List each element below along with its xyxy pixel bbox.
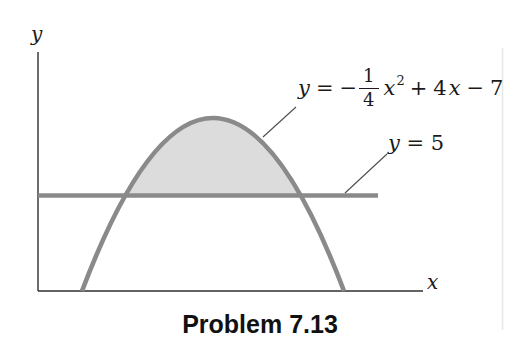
equation-coefficient: 4 [433, 78, 446, 99]
y-axis-label: y [31, 22, 42, 46]
y-equals-5-label: y = 5 [388, 131, 444, 155]
equation-equals: = [316, 78, 334, 99]
equation-exponent: 2 [396, 74, 404, 87]
fraction-numerator: 1 [359, 66, 378, 88]
equation-x-term-2: x [449, 78, 461, 99]
fraction-denominator: 4 [359, 88, 378, 111]
figure-caption: Problem 7.13 [120, 310, 400, 339]
parabola-label-leader-line [263, 107, 296, 137]
equation-minus: − [339, 78, 357, 99]
equation-lhs: y [298, 78, 310, 99]
line-label-var: y [388, 131, 400, 155]
equation-constant: 7 [490, 78, 503, 99]
parabola-equation-label: y = − 1 4 x 2 + 4 x − 7 [297, 66, 504, 110]
equation-fraction: 1 4 [359, 66, 378, 110]
line-label-leader-line [345, 154, 387, 193]
equation-minus-2: − [467, 78, 485, 99]
equation-plus: + [410, 78, 428, 99]
line-label-value: = 5 [400, 131, 444, 155]
x-axis-label: x [427, 270, 438, 294]
figure-page: y x y = − 1 4 x 2 + 4 x − 7 y = 5 Proble… [0, 0, 513, 347]
figure-canvas [0, 0, 513, 347]
equation-x-term: x [384, 78, 396, 99]
